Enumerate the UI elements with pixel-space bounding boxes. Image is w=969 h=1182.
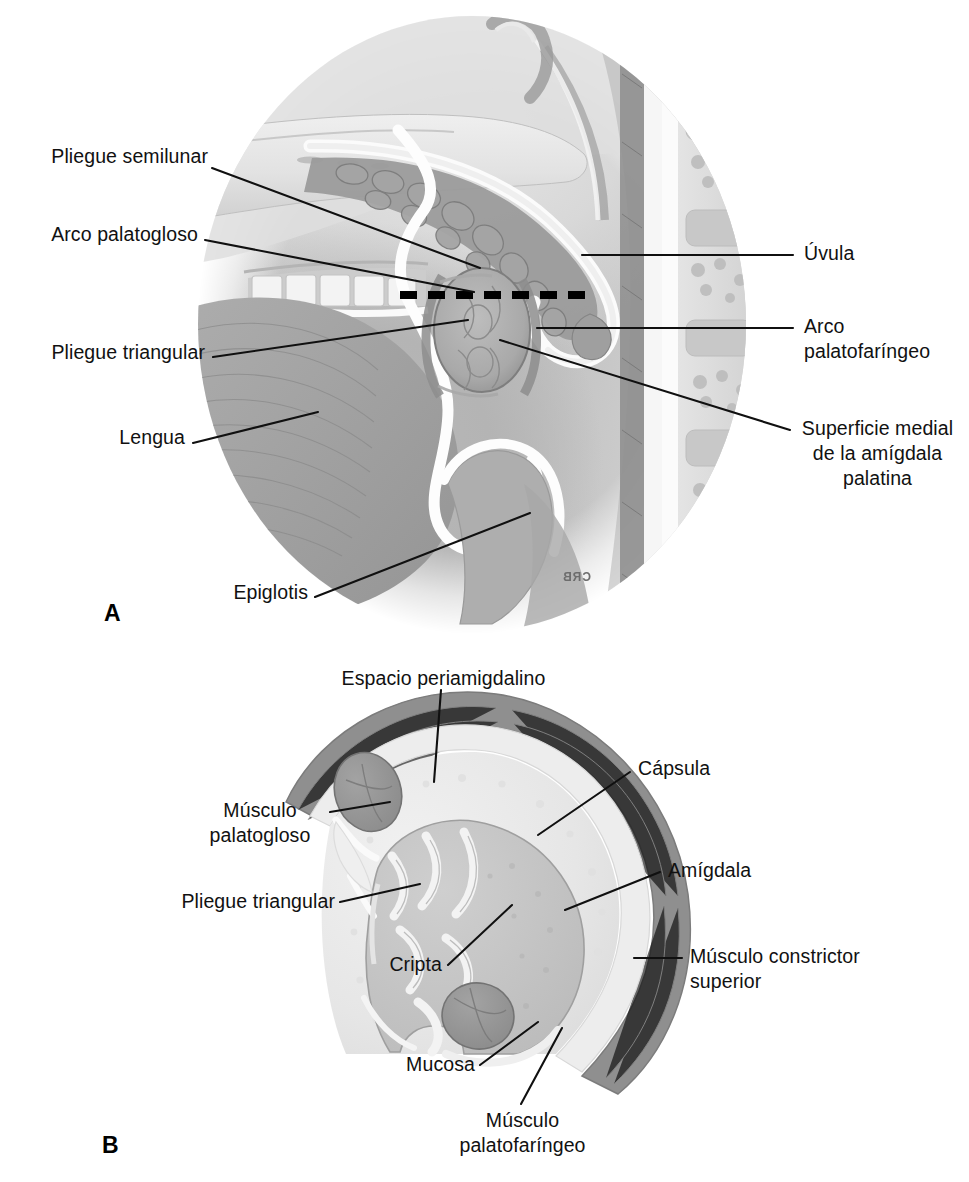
label-musculo-palatogloso: Músculo palatogloso — [190, 798, 330, 848]
label-arco-palatofaringeo: Arco palatofaríngeo — [804, 314, 969, 364]
label-lengua: Lengua — [40, 425, 185, 450]
label-cripta: Cripta — [320, 952, 442, 977]
tonsillar-capsule — [310, 725, 650, 1072]
label-epiglotis: Epiglotis — [130, 580, 308, 605]
artist-signature: CRB — [562, 570, 591, 584]
label-capsula: Cápsula — [638, 756, 828, 781]
label-espacio-periamigdalino: Espacio periamigdalino — [306, 666, 581, 691]
palatoglossus-muscle — [324, 744, 411, 840]
label-pliegue-semilunar: Pliegue semilunar — [8, 144, 208, 169]
panel-a-illustration: CRB — [192, 14, 752, 634]
anatomy-figure: CRB — [0, 0, 969, 1182]
label-musculo-palatofaringeo: Músculo palatofaríngeo — [380, 1108, 665, 1158]
label-arco-palatogloso: Arco palatogloso — [8, 222, 198, 247]
label-mucosa: Mucosa — [320, 1052, 475, 1077]
label-musculo-constrictor-superior: Músculo constrictor superior — [690, 944, 940, 994]
triangular-fold — [334, 822, 372, 892]
panel-letter-b: B — [102, 1132, 119, 1159]
label-uvula: Úvula — [804, 241, 964, 266]
palatine-tonsil-body — [366, 820, 584, 1054]
label-pliegue-triangular-a: Pliegue triangular — [0, 340, 205, 365]
superior-constrictor-muscle — [286, 692, 690, 1094]
label-superficie-medial-amigdala: Superficie medial de la amígdala palatin… — [790, 416, 965, 491]
panel-a-tissue-field — [192, 14, 752, 634]
label-amigdala: Amígdala — [668, 858, 858, 883]
label-pliegue-triangular-b: Pliegue triangular — [130, 889, 335, 914]
panel-letter-a: A — [104, 600, 121, 627]
palatopharyngeus-muscle — [437, 977, 519, 1055]
